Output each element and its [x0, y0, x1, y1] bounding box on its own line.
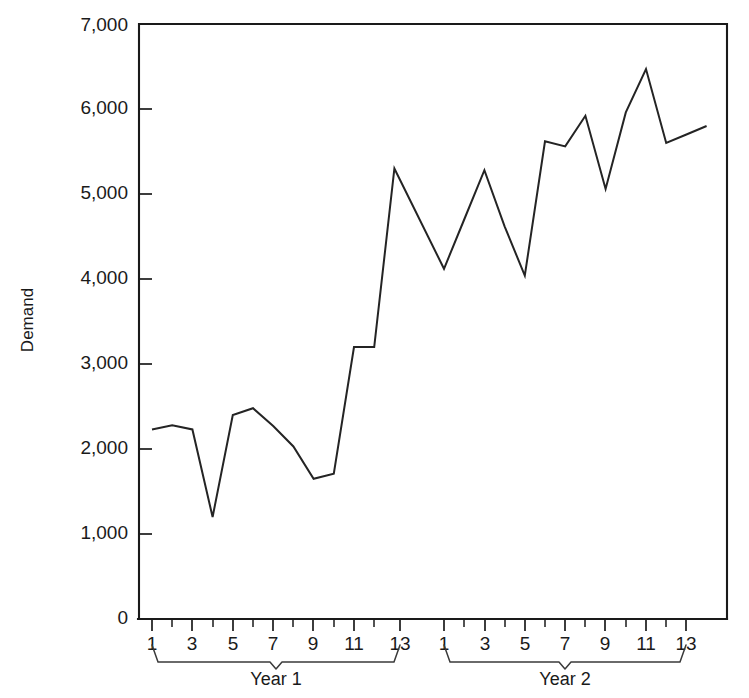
demand-line-chart: 0 1,000 2,000 3,000 4,000 5,000 6,000 7,…: [0, 0, 749, 698]
x-label-y2-1: 1: [439, 633, 450, 654]
x-label-y2-5: 5: [520, 633, 531, 654]
plot-frame-border: [139, 24, 727, 619]
x-axis-tick-labels-year-2: 1 3 5 7 9 11 13: [439, 633, 697, 654]
x-label-y2-11: 11: [636, 633, 656, 654]
x-label-y1-3: 3: [187, 633, 198, 654]
x-axis-ticks-year-1: [152, 619, 400, 631]
demand-series-line: [152, 69, 707, 517]
x-label-y1-9: 9: [308, 633, 319, 654]
y-tick-label-1000: 1,000: [80, 522, 128, 543]
x-label-y1-1: 1: [147, 633, 158, 654]
x-label-y1-5: 5: [228, 633, 239, 654]
y-tick-label-6000: 6,000: [80, 97, 128, 118]
y-axis-tick-labels: 0 1,000 2,000 3,000 4,000 5,000 6,000 7,…: [80, 14, 128, 628]
year-2-label: Year 2: [539, 669, 590, 689]
x-label-y1-13: 13: [389, 633, 410, 654]
y-tick-label-4000: 4,000: [80, 267, 128, 288]
y-tick-label-0: 0: [117, 607, 128, 628]
year-1-label: Year 1: [250, 669, 301, 689]
x-axis-tick-labels-year-1: 1 3 5 7 9 11 13: [147, 633, 411, 654]
y-tick-label-7000: 7,000: [80, 14, 128, 35]
y-axis-ticks: [139, 109, 152, 534]
x-label-y2-3: 3: [480, 633, 491, 654]
y-tick-label-2000: 2,000: [80, 437, 128, 458]
x-axis-ticks-year-2: [444, 619, 686, 631]
x-label-y1-7: 7: [268, 633, 279, 654]
x-label-y2-13: 13: [675, 633, 696, 654]
x-label-y2-9: 9: [600, 633, 611, 654]
x-label-y1-11: 11: [344, 633, 364, 654]
chart-container: 0 1,000 2,000 3,000 4,000 5,000 6,000 7,…: [0, 0, 749, 698]
y-tick-label-3000: 3,000: [80, 352, 128, 373]
y-axis-title: Demand: [18, 288, 37, 352]
x-label-y2-7: 7: [560, 633, 571, 654]
y-tick-label-5000: 5,000: [80, 182, 128, 203]
